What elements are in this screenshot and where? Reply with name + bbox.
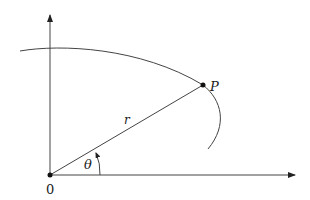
- polar-coordinates-diagram: 0 P r θ: [0, 0, 310, 200]
- point-label: P: [209, 79, 219, 94]
- origin-label: 0: [46, 182, 54, 197]
- angle-label: θ: [84, 157, 92, 172]
- angle-arc: [96, 153, 100, 175]
- radius-segment: [50, 85, 203, 175]
- radius-label: r: [124, 113, 131, 127]
- point-p: [201, 83, 206, 88]
- origin-point: [48, 173, 53, 178]
